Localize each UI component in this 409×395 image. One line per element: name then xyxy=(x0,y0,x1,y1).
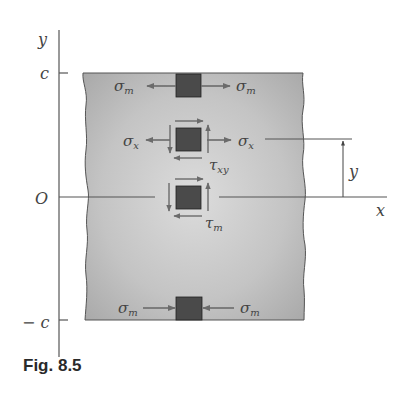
figure-caption: Fig. 8.5 xyxy=(23,356,82,376)
dimension-label: y xyxy=(348,162,359,181)
x-axis-label: x xyxy=(376,201,385,220)
origin-label: O xyxy=(35,189,48,208)
beam-stress-diagram: y c − c O x y σm σm σx σx τxy τm xyxy=(0,0,409,395)
minus-c-label: − c xyxy=(22,313,49,332)
y-axis-label: y xyxy=(37,30,48,49)
c-label: c xyxy=(40,64,49,83)
